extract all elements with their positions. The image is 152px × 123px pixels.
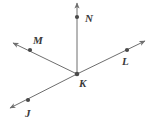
ray-diagram-canvas: K N M L J <box>0 0 152 123</box>
ray-K-to-M <box>13 43 77 74</box>
point-dot-K <box>75 72 80 77</box>
point-label-J: J <box>24 107 31 119</box>
point-label-L: L <box>121 55 129 67</box>
ray-K-to-L <box>77 41 145 74</box>
point-dot-N <box>75 15 79 19</box>
point-dot-J <box>26 98 30 102</box>
ray-K-to-J <box>10 74 77 108</box>
ray-diagram-figure: K N M L J <box>0 0 152 123</box>
point-dot-M <box>28 48 32 52</box>
point-dot-L <box>125 48 129 52</box>
point-label-M: M <box>32 34 44 46</box>
point-label-N: N <box>84 12 94 24</box>
point-label-K: K <box>78 77 87 89</box>
